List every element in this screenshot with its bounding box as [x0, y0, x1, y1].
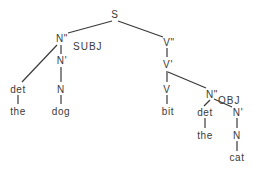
edge-n2-det-subj [22, 45, 57, 82]
node-n-double-bar-subj: N" [56, 33, 68, 44]
word-the-subj: the [10, 106, 26, 117]
subj-function-tag: SUBJ [73, 41, 103, 52]
node-v-double-bar: V" [163, 37, 174, 48]
word-bit: bit [162, 106, 174, 117]
edge-s-subj [68, 21, 112, 33]
node-s: S [111, 9, 118, 20]
node-n-subj: N [57, 84, 65, 95]
edge-obj-det [204, 100, 210, 106]
node-det-subj: det [10, 84, 26, 95]
node-n-bar-subj: N' [57, 55, 67, 66]
node-v: V [163, 84, 170, 95]
node-n-bar-obj: N' [233, 107, 243, 118]
node-det-obj: det [197, 107, 213, 118]
edge-v1-obj [168, 72, 206, 88]
word-cat: cat [229, 152, 244, 163]
tree-nodes: S N" SUBJ N' det N the dog V" V' V bit N… [10, 9, 244, 163]
word-the-obj: the [197, 130, 213, 141]
edge-s-v2 [118, 21, 163, 37]
syntax-tree-diagram: S N" SUBJ N' det N the dog V" V' V bit N… [0, 0, 255, 172]
node-v-bar: V' [163, 59, 173, 70]
word-dog: dog [52, 106, 71, 117]
obj-function-tag: OBJ [218, 95, 240, 106]
node-n-double-bar-obj: N" [206, 89, 218, 100]
node-n-obj: N [233, 130, 241, 141]
